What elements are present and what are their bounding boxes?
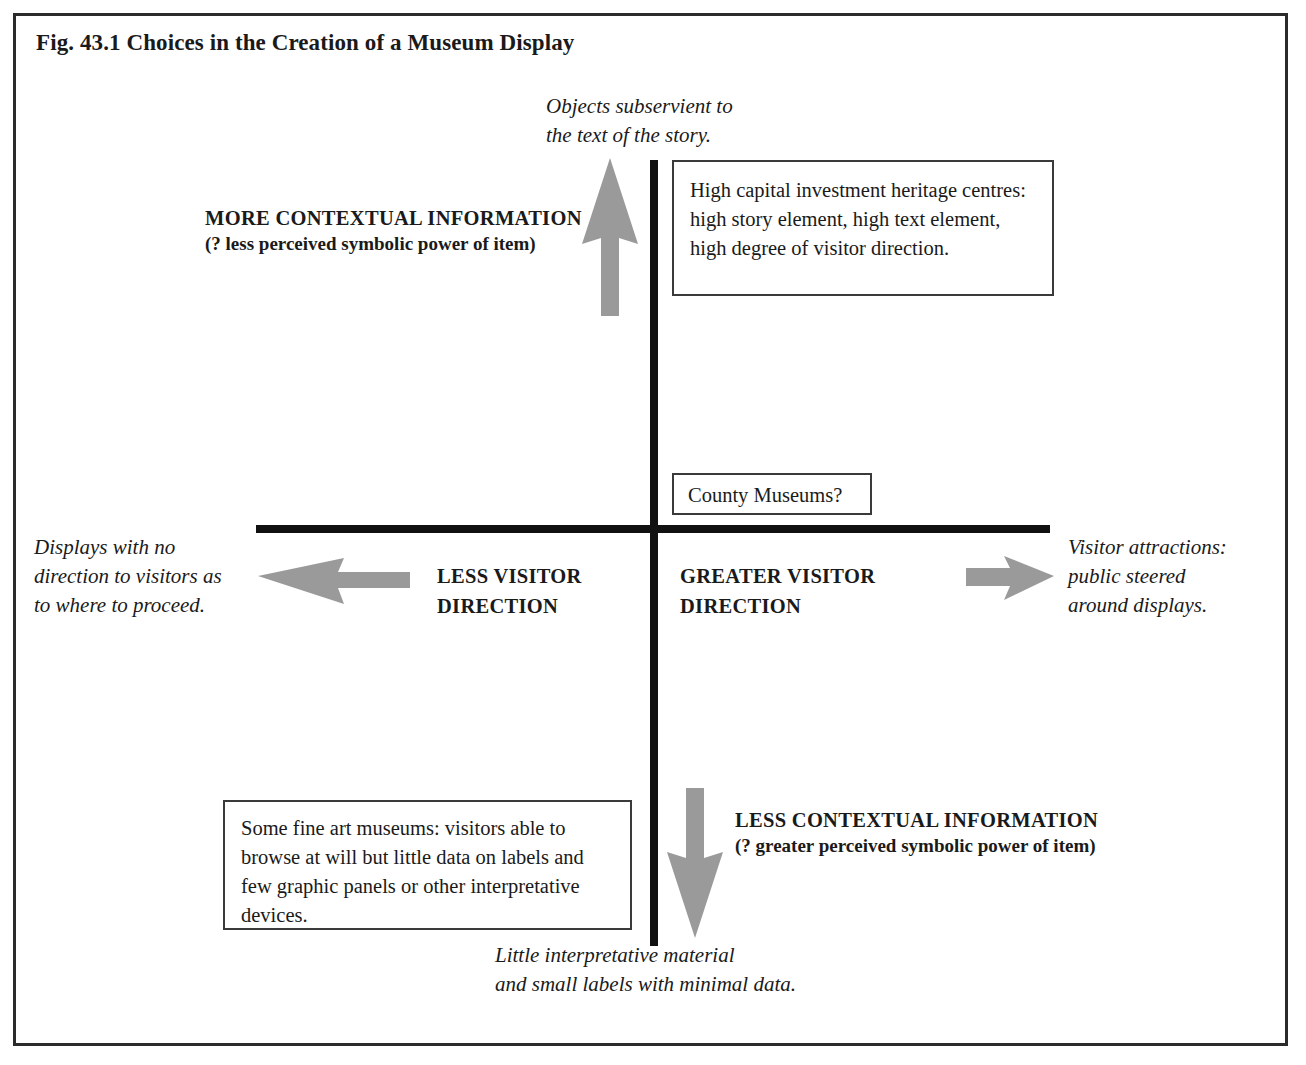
axis-label-greater-visitor-line2: DIRECTION [680,592,875,622]
callout-heritage-centres-line2: high story element, high text element, [690,205,1052,234]
axis-note-bottom: Little interpretative material and small… [495,941,796,999]
callout-heritage-centres-line1: High capital investment heritage centres… [690,176,1052,205]
axis-note-right-line2: public steered [1068,562,1227,591]
axis-note-top: Objects subservient to the text of the s… [546,92,733,150]
axis-note-bottom-line2: and small labels with minimal data. [495,970,796,999]
up-arrow-icon [580,158,640,316]
axis-note-top-line2: the text of the story. [546,121,733,150]
horizontal-axis-line [256,525,1050,533]
axis-note-left-line3: to where to proceed. [34,591,222,620]
axis-note-right: Visitor attractions: public steered arou… [1068,533,1227,620]
axis-note-left: Displays with no direction to visitors a… [34,533,222,620]
figure-container: Fig. 43.1 Choices in the Creation of a M… [0,0,1306,1065]
axis-label-less-visitor-line1: LESS VISITOR [437,562,582,592]
axis-label-less-visitor-direction: LESS VISITOR DIRECTION [437,562,582,621]
callout-fine-art-museums-line4: devices. [241,901,630,930]
axis-label-more-contextual-information: MORE CONTEXTUAL INFORMATION (? less perc… [205,207,582,255]
axis-label-less-contextual-information: LESS CONTEXTUAL INFORMATION (? greater p… [735,809,1098,857]
axis-note-right-line3: around displays. [1068,591,1227,620]
axis-label-more-contextual-secondary: (? less perceived symbolic power of item… [205,233,582,255]
callout-county-museums: County Museums? [672,473,872,515]
axis-note-left-line1: Displays with no [34,533,222,562]
axis-note-top-line1: Objects subservient to [546,92,733,121]
axis-label-more-contextual-primary: MORE CONTEXTUAL INFORMATION [205,207,582,230]
callout-fine-art-museums-line1: Some fine art museums: visitors able to [241,814,630,843]
callout-heritage-centres-line3: high degree of visitor direction. [690,234,1052,263]
callout-fine-art-museums: Some fine art museums: visitors able to … [223,800,632,930]
axis-label-less-contextual-primary: LESS CONTEXTUAL INFORMATION [735,809,1098,832]
axis-note-left-line2: direction to visitors as [34,562,222,591]
axis-label-less-contextual-secondary: (? greater perceived symbolic power of i… [735,835,1098,857]
right-arrow-icon [966,556,1054,602]
callout-county-museums-line1: County Museums? [688,481,870,510]
callout-fine-art-museums-line2: browse at will but little data on labels… [241,843,630,872]
down-arrow-icon [664,788,726,938]
axis-label-greater-visitor-line1: GREATER VISITOR [680,562,875,592]
page-title: Fig. 43.1 Choices in the Creation of a M… [36,30,574,56]
axis-label-less-visitor-line2: DIRECTION [437,592,582,622]
vertical-axis-line [650,160,658,946]
axis-label-greater-visitor-direction: GREATER VISITOR DIRECTION [680,562,875,621]
axis-note-right-line1: Visitor attractions: [1068,533,1227,562]
callout-heritage-centres: High capital investment heritage centres… [672,160,1054,296]
axis-note-bottom-line1: Little interpretative material [495,941,796,970]
left-arrow-icon [258,558,410,606]
callout-fine-art-museums-line3: few graphic panels or other interpretati… [241,872,630,901]
